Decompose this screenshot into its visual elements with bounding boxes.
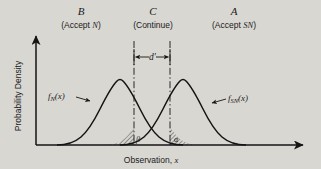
noise-label-arg: (x) [55,91,65,101]
sn-label-arg: (x) [238,93,248,103]
noise-curve-label: fN(x) [48,91,65,102]
x-axis-label: Observation, x [124,155,179,165]
region-a-sub-open: (Accept [212,20,241,30]
region-headings: B (Accept N) C (Continue) A (Accept SN) [61,5,256,30]
region-heading-c: C (Continue) [133,5,173,30]
d-prime-measure: d′ [134,49,170,65]
signal-noise-label-leader [212,99,226,103]
axes [36,36,303,145]
region-b-sub-close: ) [98,20,101,30]
region-heading-b: B (Accept N) [61,5,101,30]
region-a-letter: A [230,5,238,17]
region-a-sub-close: ) [253,20,256,30]
noise-label-leader [76,97,90,101]
d-prime-label: d′ [149,52,157,62]
region-a-sublabel: (Accept SN) [212,20,256,30]
signal-detection-figure: B (Accept N) C (Continue) A (Accept SN) [0,0,321,169]
signal-noise-curve-label: fSN(x) [228,93,248,104]
region-b-letter: B [78,5,85,17]
curve-labels: fN(x) fSN(x) [48,91,248,104]
region-b-sublabel: (Accept N) [61,20,101,30]
region-c-letter: C [149,5,157,17]
beta-region-shading [103,127,134,145]
region-c-sublabel: (Continue) [133,20,173,30]
noise-curve [57,80,183,146]
x-axis-label-main: Observation, [124,155,172,165]
y-axis-label: Probability Density [13,60,23,131]
x-axis-label-var: x [173,155,178,165]
region-b-sub-open: (Accept [61,20,90,30]
density-curves [57,80,246,146]
beta-label: β [135,135,140,144]
region-heading-a: A (Accept SN) [212,5,256,30]
